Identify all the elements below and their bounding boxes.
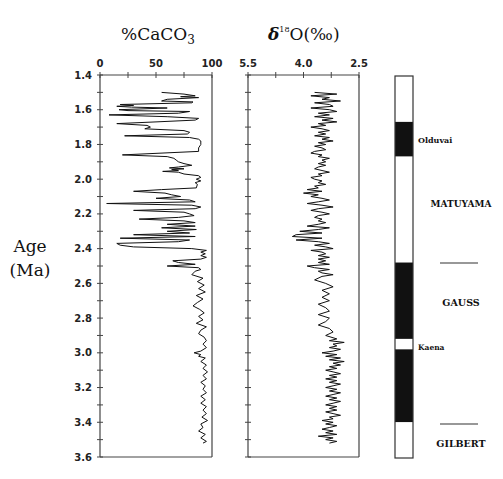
d18o-x-tick-label: 4.0 [295, 58, 313, 69]
olduvai-label: Olduvai [418, 135, 452, 145]
caco3-x-tick-label: 100 [202, 58, 223, 69]
age-tick-label: 3.2 [74, 382, 92, 393]
normal-polarity-band [395, 263, 413, 339]
age-tick-label: 2.2 [74, 208, 92, 219]
caco3-series-line [107, 92, 208, 443]
normal-polarity-band [395, 122, 413, 157]
age-tick-label: 3.4 [74, 417, 92, 428]
d18o-x-tick-label: 2.5 [350, 58, 368, 69]
reversed-polarity-band [395, 422, 413, 457]
age-tick-label: 2.0 [74, 174, 92, 185]
d18o-plot: 5.54.02.5 [239, 58, 368, 457]
gilbert-label: GILBERT [436, 438, 485, 449]
age-tick-label: 2.4 [74, 243, 92, 254]
caco3-x-tick-label: 50 [149, 58, 163, 69]
caco3-plot: 0501001.41.61.82.02.22.42.62.83.03.23.43… [74, 58, 222, 463]
normal-polarity-band [395, 349, 413, 422]
age-tick-label: 3.0 [74, 347, 92, 358]
age-tick-label: 1.4 [74, 70, 92, 81]
age-axis-label-line1: Age [12, 236, 46, 256]
age-tick-label: 2.6 [74, 278, 92, 289]
age-tick-label: 1.6 [74, 104, 92, 115]
kaena-label: Kaena [418, 343, 445, 352]
paleoclimate-figure: %CaCO3 δ18O(‰) Age (Ma) 0501001.41.61.82… [0, 0, 503, 479]
reversed-polarity-band [395, 157, 413, 263]
d18o-series-line [292, 92, 344, 443]
caco3-x-tick-label: 0 [97, 58, 104, 69]
age-tick-label: 3.6 [74, 452, 92, 463]
gauss-label: GAUSS [442, 297, 479, 308]
age-axis-label-line2: (Ma) [10, 260, 51, 280]
reversed-polarity-band [395, 339, 413, 349]
reversed-polarity-band [395, 75, 413, 122]
polarity-column [395, 75, 413, 458]
age-tick-label: 2.8 [74, 313, 92, 324]
matuyama-label: MATUYAMA [431, 199, 493, 209]
caco3-title: %CaCO3 [121, 24, 195, 47]
age-tick-label: 1.8 [74, 139, 92, 150]
d18o-x-tick-label: 5.5 [239, 58, 257, 69]
d18o-title: δ18O(‰) [267, 24, 340, 44]
